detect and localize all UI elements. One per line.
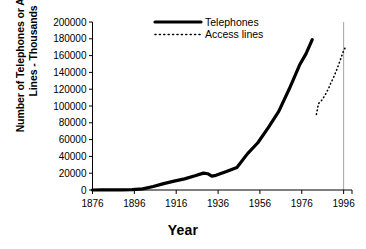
y-tick-label: 0 [81, 185, 87, 196]
x-tick-label: 1916 [165, 198, 188, 209]
x-axis-title: Year [0, 222, 366, 238]
y-tick-label: 180000 [53, 33, 87, 44]
legend-label-telephones: Telephones [205, 16, 259, 28]
y-tick-label: 120000 [53, 84, 87, 95]
x-tick-label: 1956 [249, 198, 272, 209]
y-tick-label: 40000 [59, 151, 87, 162]
y-tick-label: 160000 [53, 50, 87, 61]
chart-plot: 0200004000060000800001000001200001400001… [0, 0, 366, 249]
series-line-telephones [93, 40, 313, 190]
x-tick-label: 1996 [333, 198, 356, 209]
y-tick-label: 60000 [59, 134, 87, 145]
chart-figure: Number of Telephones or Access Lines - T… [0, 0, 366, 249]
legend-label-access-lines: Access lines [205, 28, 263, 40]
y-tick-label: 80000 [59, 117, 87, 128]
y-tick-label: 20000 [59, 168, 87, 179]
x-tick-label: 1896 [123, 198, 146, 209]
x-tick-label: 1936 [207, 198, 230, 209]
y-tick-label: 140000 [53, 67, 87, 78]
series-line-access-lines [316, 47, 345, 115]
x-tick-label: 1976 [291, 198, 314, 209]
y-tick-label: 100000 [53, 101, 87, 112]
y-tick-label: 200000 [53, 17, 87, 28]
x-tick-label: 1876 [81, 198, 104, 209]
